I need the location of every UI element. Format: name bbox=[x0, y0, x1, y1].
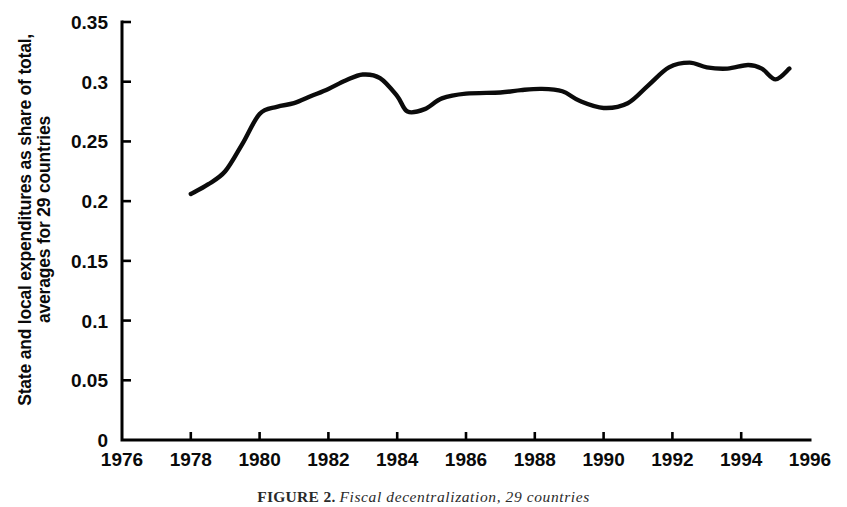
x-tick-label: 1978 bbox=[170, 449, 212, 470]
y-tick-label: 0.2 bbox=[82, 191, 108, 212]
x-tick-label: 1992 bbox=[651, 449, 693, 470]
x-tick-label: 1980 bbox=[238, 449, 280, 470]
line-chart-plot: 00.050.10.150.20.250.30.35 1976197819801… bbox=[0, 0, 847, 480]
chart-axes bbox=[122, 22, 810, 440]
y-tick-label: 0.25 bbox=[71, 131, 108, 152]
x-tick-label: 1994 bbox=[720, 449, 763, 470]
x-tick-label: 1976 bbox=[101, 449, 143, 470]
figure-caption-label: FIGURE 2. bbox=[257, 488, 335, 505]
y-tick-label: 0.15 bbox=[71, 251, 108, 272]
y-tick-label: 0.1 bbox=[82, 311, 109, 332]
x-tick-label: 1990 bbox=[582, 449, 624, 470]
y-tick-label: 0 bbox=[97, 430, 108, 451]
y-axis-tick-labels: 00.050.10.150.20.250.30.35 bbox=[71, 12, 108, 451]
y-tick-label: 0.35 bbox=[71, 12, 108, 33]
figure-container: State and local expenditures as share of… bbox=[0, 0, 847, 507]
x-tick-label: 1988 bbox=[514, 449, 556, 470]
x-tick-label: 1984 bbox=[376, 449, 419, 470]
x-tick-label: 1986 bbox=[445, 449, 487, 470]
figure-caption-text: Fiscal decentralization, 29 countries bbox=[339, 488, 589, 505]
y-tick-label: 0.3 bbox=[82, 72, 108, 93]
y-tick-label: 0.05 bbox=[71, 370, 108, 391]
figure-caption: FIGURE 2. Fiscal decentralization, 29 co… bbox=[0, 488, 847, 507]
x-axis-tick-labels: 1976197819801982198419861988199019921994… bbox=[101, 449, 831, 470]
x-tick-label: 1982 bbox=[307, 449, 349, 470]
x-tick-label: 1996 bbox=[789, 449, 831, 470]
data-series-line bbox=[191, 63, 790, 194]
